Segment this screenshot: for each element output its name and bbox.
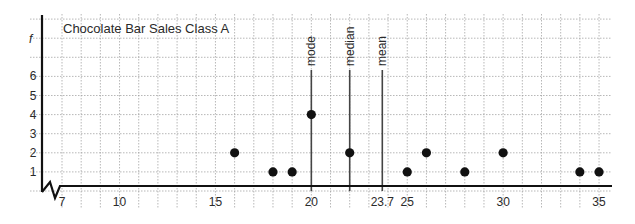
x-tick-label: 23.7	[371, 195, 395, 209]
annotation-label-mode: mode	[304, 36, 318, 66]
data-point	[268, 167, 277, 176]
y-tick-label: 4	[30, 108, 37, 122]
x-tick-label: 30	[496, 195, 510, 209]
data-point	[575, 167, 584, 176]
y-tick-label: 2	[30, 146, 37, 160]
data-point	[594, 167, 603, 176]
annotation-label-median: median	[343, 27, 357, 66]
grid	[30, 14, 612, 208]
tick-labels: 710152023.7253035123456	[30, 69, 606, 209]
data-point	[499, 148, 508, 157]
x-axis-with-break	[42, 182, 612, 198]
data-point	[403, 167, 412, 176]
data-point	[345, 148, 354, 157]
data-point	[307, 110, 316, 119]
y-tick-label: 6	[30, 69, 37, 83]
x-tick-label: 35	[592, 195, 606, 209]
dot-plot-chart: modemedianmean 710152023.7253035123456 C…	[0, 0, 635, 224]
chart-title: Chocolate Bar Sales Class A	[63, 21, 230, 36]
annotation-label-mean: mean	[375, 36, 389, 66]
data-point	[288, 167, 297, 176]
data-points	[230, 110, 604, 176]
data-point	[460, 167, 469, 176]
y-tick-label: 5	[30, 89, 37, 103]
axes	[42, 15, 612, 198]
x-tick-label: 10	[113, 195, 127, 209]
y-tick-label: 3	[30, 127, 37, 141]
x-tick-label: 25	[401, 195, 415, 209]
data-point	[422, 148, 431, 157]
x-tick-label: 20	[305, 195, 319, 209]
x-tick-label: 15	[209, 195, 223, 209]
y-axis-label: f	[29, 32, 34, 46]
annotation-lines: modemedianmean	[304, 27, 389, 191]
x-tick-label: 7	[59, 195, 66, 209]
y-tick-label: 1	[30, 165, 37, 179]
data-point	[230, 148, 239, 157]
